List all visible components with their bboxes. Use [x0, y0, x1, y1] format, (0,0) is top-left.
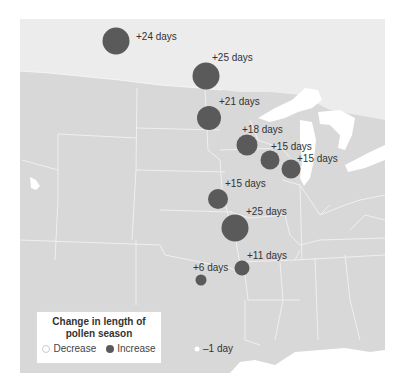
svg-text:+11 days: +11 days — [247, 250, 287, 261]
legend: Change in length of pollen season Decrea… — [36, 311, 162, 364]
svg-text:+15 days: +15 days — [271, 141, 312, 152]
svg-text:+15 days: +15 days — [225, 178, 266, 189]
increase-circle-icon — [106, 345, 114, 353]
svg-text:–1 day: –1 day — [203, 343, 233, 354]
svg-text:+24 days: +24 days — [136, 31, 177, 42]
legend-increase: Increase — [106, 343, 155, 354]
legend-decrease-label: Decrease — [53, 343, 96, 354]
legend-title-line1: Change in length of — [37, 316, 161, 328]
svg-text:+15 days: +15 days — [297, 153, 338, 164]
decrease-circle-icon — [42, 345, 50, 353]
svg-text:+6 days: +6 days — [193, 262, 228, 273]
legend-increase-label: Increase — [117, 343, 155, 354]
svg-text:+18 days: +18 days — [242, 124, 283, 135]
svg-text:+25 days: +25 days — [212, 52, 253, 63]
legend-title-line2: pollen season — [37, 328, 161, 340]
svg-text:+21 days: +21 days — [219, 96, 260, 107]
legend-items: Decrease Increase — [37, 343, 161, 354]
legend-title: Change in length of pollen season — [37, 316, 161, 340]
legend-decrease: Decrease — [42, 343, 96, 354]
svg-text:+25 days: +25 days — [246, 206, 287, 217]
